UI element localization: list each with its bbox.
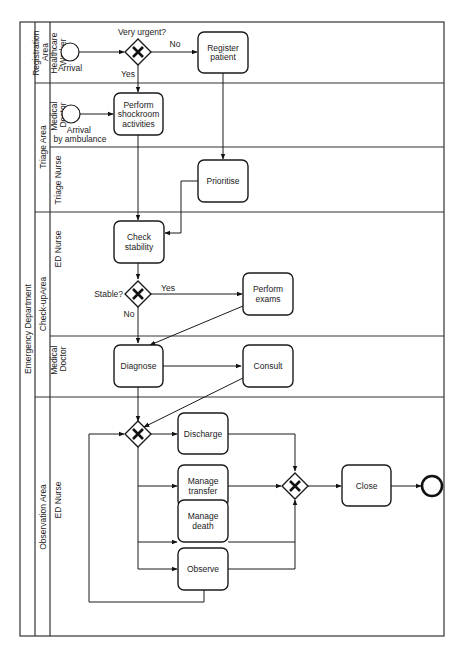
gateway-stable-no-label: No [124,309,135,319]
gateway-stable[interactable]: Stable? Yes No [94,281,175,319]
task-prioritise[interactable]: Prioritise [198,160,248,202]
end-event[interactable] [422,476,442,496]
lane-group-label-checkup: Check-upArea [38,277,48,332]
gateway-stable-yes-label: Yes [161,283,175,293]
task-register-patient[interactable]: Registerpatient [198,32,248,73]
task-label: Checkstability [125,232,154,252]
start-event-arrival-label: Arrival [58,63,82,73]
task-label: Performshockroomactivities [118,100,160,129]
lane-label-medical-doctor-checkup: Medical Doctor [49,343,68,375]
gateway-stable-label: Stable? [94,289,123,299]
task-label: Registerpatient [207,43,239,63]
task-label: Consult [254,361,283,371]
start-event-circle[interactable] [61,43,79,61]
task-label: Diagnose [121,361,157,371]
lane-group-label-observation: Observation Area [38,484,48,550]
lane-label-ed-nurse-observation: ED Nurse [53,481,63,518]
task-label: Close [356,481,378,491]
lane-labels: Healthcare Worker Medical Doctor Triage … [49,30,68,518]
task-manage-death[interactable]: Managedeath [178,500,228,542]
gateway-very-urgent[interactable]: Very urgent? No Yes [118,27,181,79]
bpmn-diagram: Emergency Department Registration Area T… [0,0,460,651]
task-check-stability[interactable]: Checkstability [114,221,164,263]
task-consult[interactable]: Consult [243,345,293,387]
task-observe[interactable]: Observe [178,548,228,590]
task-label: Discharge [184,429,223,439]
task-label: Prioritise [206,176,239,186]
flow-observe-to-join [228,500,295,569]
end-event-circle[interactable] [422,476,442,496]
task-close[interactable]: Close [342,465,391,506]
gateway-very-urgent-yes-label: Yes [121,69,135,79]
gateway-very-urgent-label: Very urgent? [118,27,166,37]
lane-group-labels: Registration Area Triage Area Check-upAr… [31,28,50,550]
start-event-circle[interactable] [62,105,80,123]
lane-label-ed-nurse-checkup: ED Nurse [53,230,63,267]
lane-label-triage-nurse: Triage Nurse [53,155,63,204]
task-label: Managetransfer [188,476,219,496]
gateway-very-urgent-no-label: No [170,39,181,49]
task-label: Observe [187,564,219,574]
task-diagnose[interactable]: Diagnose [114,345,163,387]
flow-exams-to-diagnose [150,306,243,345]
task-label: Performexams [253,284,283,304]
gateway-observation-split[interactable] [125,421,151,447]
task-perform-exams[interactable]: Performexams [243,273,293,315]
lane-group-label-registration: Registration Area [31,28,50,76]
gateway-observation-join[interactable] [282,473,308,499]
lane-group-label-triage: Triage Area [38,125,48,169]
flow-prioritise-to-check [165,181,198,233]
flow-discharge-to-join [228,434,295,471]
pool-label: Emergency Department [23,283,33,373]
task-perform-shockroom[interactable]: Performshockroomactivities [114,93,163,135]
task-discharge[interactable]: Discharge [178,413,228,454]
